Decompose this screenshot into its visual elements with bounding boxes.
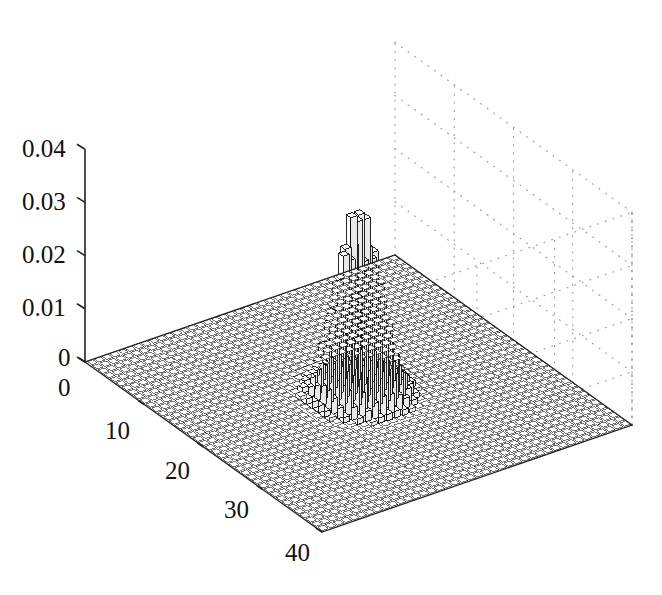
x-tick-label-40: 40 — [285, 540, 310, 565]
x-tick-label-0: 0 — [58, 375, 71, 400]
x-tick-label-30: 30 — [224, 497, 249, 522]
bar3-plot — [0, 0, 662, 595]
z-tick-label-004: 0.04 — [22, 136, 66, 161]
x-tick-label-10: 10 — [105, 418, 130, 443]
z-tick-label-0: 0 — [58, 345, 71, 370]
z-tick-label-002: 0.02 — [22, 242, 66, 267]
x-tick-label-20: 20 — [165, 458, 190, 483]
z-tick-label-001: 0.01 — [22, 295, 66, 320]
z-tick-label-003: 0.03 — [22, 189, 66, 214]
figure-canvas: 0.04 0.03 0.02 0.01 0 0 10 20 30 40 — [0, 0, 662, 595]
